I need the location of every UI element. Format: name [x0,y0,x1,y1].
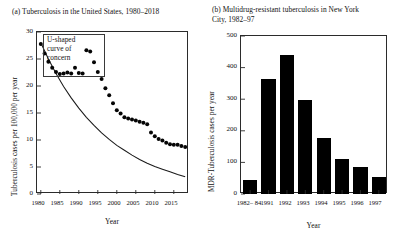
panel-a-ytick-10: 10 [14,135,33,143]
panel-a-ytick-20: 20 [14,81,33,89]
panel-b-ytick-100: 100 [213,157,237,165]
panel-a-annotation-text: U-shaped curve of concern [47,36,105,62]
panel-b-xtick-1997: 1997 [361,199,389,206]
panel-b-plot-area [240,35,387,193]
panel-a-xtick-2015: 2015 [158,199,184,206]
panel-a-ytick-30: 30 [14,27,33,35]
panel-b-x-axis-label: Year [240,221,387,230]
panel-b-ytick-400: 400 [213,62,237,70]
panel-a-ytick-25: 25 [14,54,33,62]
panel-b-bar-svg [241,36,388,194]
panel-a-us-tuberculosis: (a) Tuberculosis in the United States, 1… [0,0,199,248]
panel-a-title: (a) Tuberculosis in the United States, 1… [12,7,198,17]
panel-a-x-axis-label: Year [36,217,188,226]
panel-b-ytick-500: 500 [213,31,237,39]
panel-b-ytick-300: 300 [213,94,237,102]
panel-a-ytick-5: 5 [14,162,33,170]
panel-b-ytick-0: 0 [213,189,237,197]
panel-a-ytick-15: 15 [14,108,33,116]
panel-b-y-axis-label: MDR-Tuberculosis cases per year [208,91,216,192]
tuberculosis-figure: (a) Tuberculosis in the United States, 1… [0,0,398,248]
panel-b-nyc-mdr-tuberculosis: (b) Multidrug-resistant tuberculosis in … [199,0,398,248]
panel-a-ytick-0: 0 [14,189,33,197]
panel-b-ytick-200: 200 [213,125,237,133]
panel-b-title: (b) Multidrug-resistant tuberculosis in … [212,5,398,24]
